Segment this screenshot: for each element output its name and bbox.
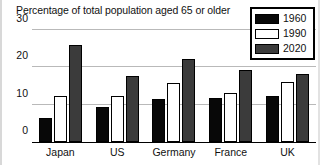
x-tick-label-uk: UK	[280, 146, 295, 158]
legend-label-1990: 1990	[283, 28, 306, 39]
y-tick-label-10: 10	[16, 87, 28, 99]
legend-item-1990[interactable]: 1990	[255, 26, 310, 41]
legend-swatch-2020	[255, 44, 279, 54]
chart-title: Percentage of total population aged 65 o…	[16, 4, 230, 16]
bar-france-1960	[209, 98, 222, 142]
bar-france-2020	[239, 70, 252, 142]
bar-us-2020	[126, 76, 139, 142]
bar-group-france: France	[209, 30, 252, 142]
legend-label-2020: 2020	[283, 43, 306, 54]
x-tick-label-us: US	[110, 146, 125, 158]
y-tick-label-0: 0	[22, 124, 28, 136]
bar-france-1990	[224, 93, 237, 142]
legend-swatch-1960	[255, 14, 279, 24]
bar-germany-2020	[182, 59, 195, 142]
bar-uk-1960	[266, 96, 279, 142]
bar-us-1960	[96, 107, 109, 142]
bar-uk-1990	[281, 82, 294, 142]
bar-us-1990	[111, 96, 124, 142]
bar-uk-2020	[296, 74, 309, 142]
x-tick-label-france: France	[214, 146, 247, 158]
bar-japan-2020	[69, 45, 82, 142]
legend-item-2020[interactable]: 2020	[255, 41, 310, 56]
legend-swatch-1990	[255, 29, 279, 39]
bar-germany-1990	[167, 83, 180, 142]
legend-item-1960[interactable]: 1960	[255, 11, 310, 26]
chart-legend: 196019902020	[250, 7, 315, 60]
x-tick-label-germany: Germany	[152, 146, 195, 158]
x-tick-label-japan: Japan	[46, 146, 75, 158]
bar-germany-1960	[152, 99, 165, 142]
bar-chart: Percentage of total population aged 65 o…	[0, 0, 320, 165]
bar-japan-1990	[54, 96, 67, 142]
bar-group-us: US	[96, 30, 139, 142]
legend-label-1960: 1960	[283, 13, 306, 24]
y-tick-label-20: 20	[16, 49, 28, 61]
bar-group-germany: Germany	[152, 30, 195, 142]
y-tick-label-30: 30	[16, 12, 28, 24]
bar-japan-1960	[39, 118, 52, 142]
bar-group-japan: Japan	[39, 30, 82, 142]
